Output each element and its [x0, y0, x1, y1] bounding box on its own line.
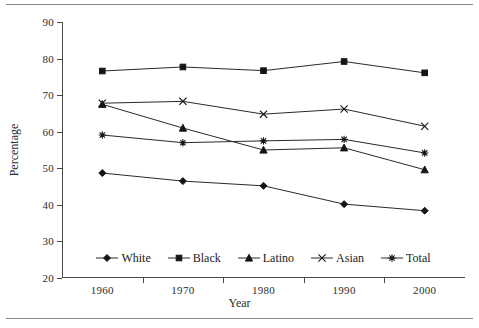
- plot-area: 2030405060708090 19601970198019902000: [62, 22, 465, 278]
- data-point: [341, 201, 348, 208]
- data-point: [341, 59, 347, 65]
- y-tick-label: 20: [42, 272, 54, 284]
- bottom-horizontal-rule: [6, 318, 473, 319]
- legend-item-latino[interactable]: Latino: [238, 252, 294, 264]
- data-point: [422, 70, 428, 76]
- series-black: [100, 59, 428, 76]
- legend-label: Latino: [263, 252, 294, 264]
- x-axis-label: Year: [0, 296, 479, 311]
- legend-label: Total: [406, 252, 431, 264]
- x-tick-label: 1970: [171, 284, 194, 296]
- data-point: [421, 123, 428, 130]
- x-tick: [304, 278, 305, 283]
- series-layer: [62, 22, 465, 278]
- top-horizontal-rule: [6, 4, 473, 5]
- legend-label: Asian: [336, 252, 364, 264]
- x-tick-label: 1960: [91, 284, 114, 296]
- y-tick-label: 70: [42, 89, 54, 101]
- legend-marker-asterisk-icon: [381, 252, 403, 264]
- x-tick-label: 2000: [413, 284, 436, 296]
- data-point: [421, 149, 428, 156]
- legend-item-black[interactable]: Black: [168, 252, 221, 264]
- y-tick-label: 60: [42, 126, 54, 138]
- y-axis-label: Percentage: [7, 124, 22, 177]
- data-point: [99, 131, 106, 138]
- data-point: [179, 178, 186, 185]
- legend-marker-triangle-icon: [238, 252, 260, 264]
- data-point: [99, 170, 106, 177]
- series-white: [99, 170, 428, 215]
- y-tick: [57, 278, 62, 279]
- y-tick-label: 50: [42, 162, 54, 174]
- data-point: [340, 136, 347, 143]
- figure-container: Percentage Year 2030405060708090 1960197…: [0, 0, 479, 328]
- data-point: [179, 139, 186, 146]
- data-point: [421, 207, 428, 214]
- series-line: [102, 173, 424, 211]
- legend-item-asian[interactable]: Asian: [311, 252, 364, 264]
- legend-label: White: [121, 252, 150, 264]
- data-point: [260, 137, 267, 144]
- legend-item-white[interactable]: White: [96, 252, 150, 264]
- series-asian: [99, 98, 429, 130]
- legend-item-total[interactable]: Total: [381, 252, 431, 264]
- data-point: [180, 64, 186, 70]
- legend-marker-diamond-icon: [96, 252, 118, 264]
- chart-legend: WhiteBlackLatinoAsianTotal: [62, 250, 465, 266]
- x-tick: [143, 278, 144, 283]
- y-tick-label: 40: [42, 199, 54, 211]
- legend-label: Black: [193, 252, 221, 264]
- data-point: [261, 68, 267, 74]
- legend-marker-cross-icon: [311, 252, 333, 264]
- x-tick: [223, 278, 224, 283]
- x-tick-label: 1990: [332, 284, 355, 296]
- x-tick: [384, 278, 385, 283]
- y-tick-label: 90: [42, 16, 54, 28]
- y-tick-label: 80: [42, 53, 54, 65]
- x-tick-label: 1980: [252, 284, 275, 296]
- data-point: [100, 68, 106, 74]
- series-latino: [99, 101, 429, 173]
- data-point: [260, 182, 267, 189]
- y-tick-label: 30: [42, 235, 54, 247]
- legend-marker-square-icon: [168, 252, 190, 264]
